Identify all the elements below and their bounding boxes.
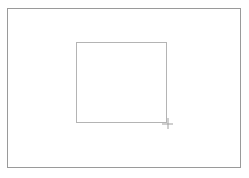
- app-root: [0, 0, 249, 178]
- canvas-frame[interactable]: [7, 8, 241, 168]
- drawn-rectangle-shape[interactable]: [76, 42, 167, 123]
